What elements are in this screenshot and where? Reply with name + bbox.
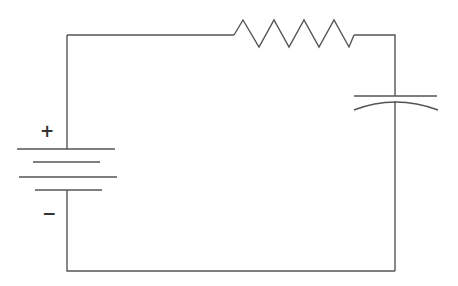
resistor <box>234 20 354 47</box>
wire-top-right <box>354 35 395 96</box>
battery <box>17 149 117 190</box>
positive-terminal-label: + <box>40 121 54 141</box>
wire-bottom <box>67 190 395 271</box>
negative-terminal-label: − <box>42 203 56 223</box>
circuit-diagram: + − <box>0 0 458 286</box>
capacitor <box>354 96 438 110</box>
